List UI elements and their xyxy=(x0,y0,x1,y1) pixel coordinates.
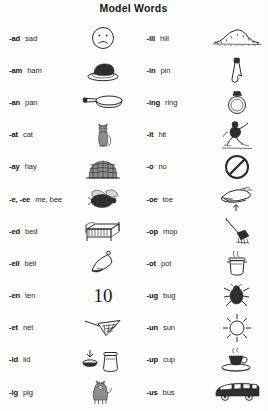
word-labels: -en ten xyxy=(0,291,74,300)
bed-icon xyxy=(74,215,132,247)
ring-icon xyxy=(208,86,266,118)
word-labels: -in pin xyxy=(134,66,208,75)
pot-icon xyxy=(208,247,266,279)
list-item: -e, -ee me, bee xyxy=(0,183,134,215)
word-labels: -an pan xyxy=(0,98,74,107)
example-word: bell xyxy=(25,259,36,268)
list-item: -in pin xyxy=(134,54,268,86)
rime-pattern: -en xyxy=(9,291,20,300)
example-word: bug xyxy=(163,291,175,300)
list-item: -an pan xyxy=(0,86,134,118)
hill-icon xyxy=(208,22,266,54)
example-word: bus xyxy=(163,388,175,397)
example-word: ham xyxy=(27,66,41,75)
example-word: pan xyxy=(25,98,37,107)
rime-pattern: -ug xyxy=(147,291,159,300)
toe-icon xyxy=(208,183,266,215)
example-word: no xyxy=(158,162,166,171)
example-word: mop xyxy=(163,227,177,236)
example-word: toe xyxy=(163,195,173,204)
lid-and-jar-icon xyxy=(74,344,132,376)
rime-pattern: -oe xyxy=(147,195,158,204)
list-item: -ad sad xyxy=(0,22,134,54)
word-list-columns: -ad sad -am ham xyxy=(0,22,267,411)
rime-pattern: -ay xyxy=(9,162,20,171)
word-labels: -at cat xyxy=(0,130,74,139)
word-labels: -ed bed xyxy=(0,227,74,236)
batter-hitting-icon xyxy=(208,119,266,151)
list-item: -en ten 10 xyxy=(0,280,134,312)
numeral-ten: 10 xyxy=(74,280,132,312)
left-column: -ad sad -am ham xyxy=(0,22,134,411)
rime-pattern: -at xyxy=(9,130,18,139)
mop-icon xyxy=(208,215,266,247)
list-item: -ot pot xyxy=(134,247,268,279)
bell-icon xyxy=(74,247,132,279)
word-labels: -oe toe xyxy=(134,195,208,204)
example-word: hit xyxy=(158,130,166,139)
rime-pattern: -ig xyxy=(9,388,18,397)
example-word: cup xyxy=(163,355,175,364)
frying-pan-icon xyxy=(74,86,132,118)
example-word: hill xyxy=(160,34,169,43)
word-labels: -id lid xyxy=(0,355,74,364)
rime-pattern: -op xyxy=(147,227,159,236)
bus-icon xyxy=(208,376,266,408)
example-word: bed xyxy=(25,227,37,236)
word-labels: -ug bug xyxy=(134,291,208,300)
list-item: -at cat xyxy=(0,119,134,151)
right-column: -ill hill -in pin xyxy=(134,22,268,411)
rime-pattern: -ed xyxy=(9,227,20,236)
rime-pattern: -ell xyxy=(9,259,20,268)
no-sign-icon xyxy=(208,151,266,183)
list-item: -oe toe xyxy=(134,183,268,215)
list-item: -us bus xyxy=(134,376,268,408)
list-item: -ay hay xyxy=(0,151,134,183)
example-word: net xyxy=(23,323,33,332)
list-item: -o no xyxy=(134,151,268,183)
cat-icon xyxy=(74,119,132,151)
list-item: -ing ring xyxy=(134,86,268,118)
example-word: pot xyxy=(161,259,171,268)
list-item: -ig pig xyxy=(0,376,134,408)
rime-pattern: -id xyxy=(9,355,18,364)
word-labels: -it hit xyxy=(134,130,208,139)
rime-pattern: -ill xyxy=(147,34,155,43)
word-labels: -ill hill xyxy=(134,34,208,43)
word-labels: -ay hay xyxy=(0,162,74,171)
sad-face-icon xyxy=(74,22,132,54)
word-labels: -ell bell xyxy=(0,259,74,268)
example-word: ten xyxy=(25,291,35,300)
list-item: -up cup xyxy=(134,344,268,376)
rime-pattern: -ing xyxy=(147,98,161,107)
word-labels: -ad sad xyxy=(0,34,74,43)
bee-icon xyxy=(74,183,132,215)
word-labels: -o no xyxy=(134,162,208,171)
page-title: Model Words xyxy=(0,2,267,14)
list-item: -ell bell xyxy=(0,247,134,279)
example-word: sad xyxy=(25,34,37,43)
pig-icon xyxy=(74,376,132,408)
list-item: -it hit xyxy=(134,119,268,151)
safety-pin-icon xyxy=(208,54,266,86)
example-word: ring xyxy=(165,98,177,107)
word-labels: -ing ring xyxy=(134,98,208,107)
example-word: lid xyxy=(23,355,30,364)
list-item: -un sun xyxy=(134,312,268,344)
rime-pattern: -o xyxy=(147,162,154,171)
word-labels: -e, -ee me, bee xyxy=(0,195,74,204)
list-item: -ill hill xyxy=(134,22,268,54)
example-word: pig xyxy=(23,388,33,397)
worksheet-page: Model Words -ad sad xyxy=(0,0,267,411)
rime-pattern: -in xyxy=(147,66,156,75)
example-word: hay xyxy=(25,162,37,171)
word-labels: -et net xyxy=(0,323,74,332)
word-labels: -un sun xyxy=(134,323,208,332)
rime-pattern: -e, -ee xyxy=(9,195,30,204)
net-icon xyxy=(74,312,132,344)
list-item: -et net xyxy=(0,312,134,344)
cup-icon xyxy=(208,344,266,376)
haystack-icon xyxy=(74,151,132,183)
list-item: -am ham xyxy=(0,54,134,86)
word-labels: -us bus xyxy=(134,388,208,397)
